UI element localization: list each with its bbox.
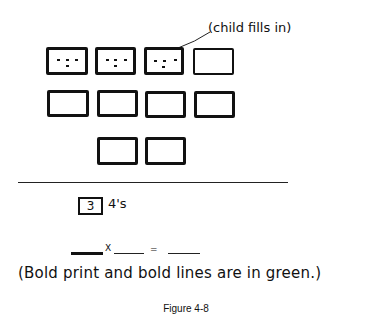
dot: [174, 59, 177, 61]
factor-blank: [114, 253, 144, 254]
product-blank: [168, 253, 200, 254]
dot: [66, 65, 69, 67]
grid-box-r3c1: [97, 137, 138, 165]
dot: [162, 66, 165, 68]
dot: [75, 59, 78, 61]
dot: [114, 59, 117, 61]
color-note: (Bold print and bold lines are in green.…: [18, 264, 321, 282]
grid-box-r2c3: [145, 91, 186, 118]
grid-box-r2c1: [47, 90, 89, 117]
figure-caption: Figure 4-8: [0, 303, 372, 314]
grid-box-r1c3: [144, 47, 184, 75]
grid-box-r2c4: [194, 91, 235, 118]
grid-box-r2c2: [97, 90, 138, 117]
factor-blank-bold: [71, 252, 103, 255]
group-unit-label: 4's: [108, 196, 127, 211]
dot: [57, 59, 60, 61]
dot: [124, 59, 127, 61]
equals-symbol: =: [150, 244, 158, 254]
annotation-label: (child fills in): [208, 20, 291, 35]
grid-box-r1c2: [95, 47, 136, 75]
dot: [163, 60, 166, 62]
times-symbol: X: [105, 243, 111, 253]
grid-box-r1c4: [193, 48, 234, 75]
grid-box-r3c2: [145, 137, 186, 165]
dot: [66, 59, 69, 61]
grid-box-r1c1: [46, 47, 88, 75]
dot: [154, 60, 157, 62]
group-count-box: 3: [78, 197, 103, 215]
dot: [106, 59, 109, 61]
divider-line: [18, 182, 288, 183]
dot: [114, 65, 117, 67]
